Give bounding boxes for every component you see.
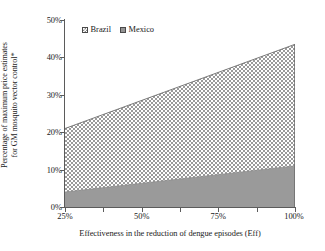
legend-label-mexico: Mexico [128,25,154,35]
checkerboard-swatch-icon [82,27,88,33]
x-tick-label-50: 50% [122,212,162,222]
x-tick-label-100: 100% [274,212,314,222]
y-axis-title-line-1: Percentage of maximum price estimates [0,5,10,205]
dengue-price-estimate-chart: Percentage of maximum price estimates fo… [0,0,325,251]
plot-area [65,20,295,207]
y-tick-label-50: 50% [30,16,62,25]
x-tick-mark-37-5 [103,208,104,212]
legend-label-brazil: Brazil [91,25,111,35]
solid-gray-swatch-icon [120,27,126,33]
y-axis-title-line-2: for GM mosquito vector control* [10,5,20,205]
y-tick-label-0: 0% [30,203,62,212]
y-tick-label-30: 30% [30,90,62,99]
x-tick-label-75: 75% [198,212,238,222]
legend: Brazil Mexico [82,25,154,35]
x-tick-mark-62-5 [180,208,181,212]
x-tick-label-25: 25% [45,212,85,222]
y-axis-tick-labels: 50% 40% 30% 20% 10% 0% [30,0,62,215]
x-axis-title: Effectiveness in the reduction of dengue… [30,228,310,239]
area-series-svg [65,20,295,207]
y-tick-label-40: 40% [30,53,62,62]
y-axis-line [64,19,65,208]
y-tick-label-20: 20% [30,128,62,137]
y-tick-label-10: 10% [30,165,62,174]
legend-item-brazil[interactable]: Brazil [82,25,111,35]
legend-item-mexico[interactable]: Mexico [120,25,154,35]
x-tick-mark-87-5 [257,208,258,212]
